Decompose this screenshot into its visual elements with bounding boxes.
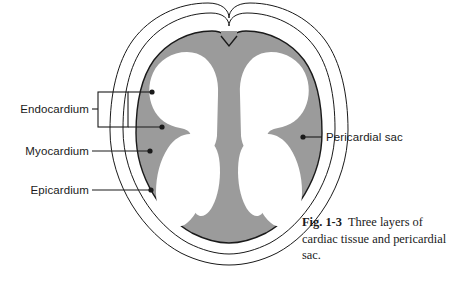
label-epicardium: Epicardium (30, 184, 89, 196)
caption-figure-number: Fig. 1-3 (302, 215, 342, 229)
endocardium-pointer-dot-upper (149, 89, 154, 94)
label-endocardium: Endocardium (20, 103, 89, 115)
endocardium-pointer-dot-lower (159, 124, 164, 129)
label-pericardial-sac: Pericardial sac (326, 131, 403, 143)
epicardium-pointer-dot (148, 187, 153, 192)
figure-three-layers-of-cardiac-tissue: Endocardium Myocardium Epicardium Perica… (0, 0, 458, 284)
figure-caption: Fig. 1-3 Three layers of cardiac tissue … (302, 214, 454, 264)
myocardium-pointer-dot (147, 148, 152, 153)
pericardial-sac-pointer-dot (300, 134, 305, 139)
label-myocardium: Myocardium (25, 145, 89, 157)
